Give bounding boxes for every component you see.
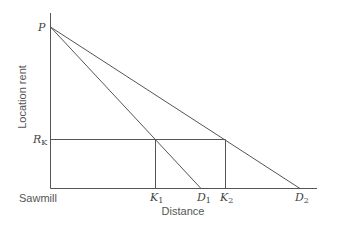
rent-gradient-line-d1: [51, 27, 202, 189]
rk-label: RK: [32, 133, 48, 147]
rk-label-sub: K: [41, 138, 48, 147]
d2-label-main: D: [294, 191, 304, 204]
origin-label: Sawmill: [19, 192, 57, 204]
x-axis-label: Distance: [162, 205, 205, 217]
y-axis-label: Location rent: [16, 65, 28, 129]
rent-gradient-line-d2: [51, 27, 301, 189]
k1-label-sub: 1: [158, 196, 163, 205]
d1-label-main: D: [196, 191, 206, 204]
d1-label-sub: 1: [206, 196, 211, 205]
p-label: P: [37, 21, 46, 34]
k1-label: K1: [149, 191, 163, 205]
d1-label: D1: [196, 191, 211, 205]
k2-label-sub: 2: [228, 196, 233, 205]
rk-label-main: R: [32, 133, 41, 146]
d2-label: D2: [294, 191, 309, 205]
d2-label-sub: 2: [304, 196, 309, 205]
location-rent-diagram: P RK K1 D1 K2 D2 Sawmill Distance Locati…: [0, 0, 343, 225]
k2-label: K2: [219, 191, 233, 205]
